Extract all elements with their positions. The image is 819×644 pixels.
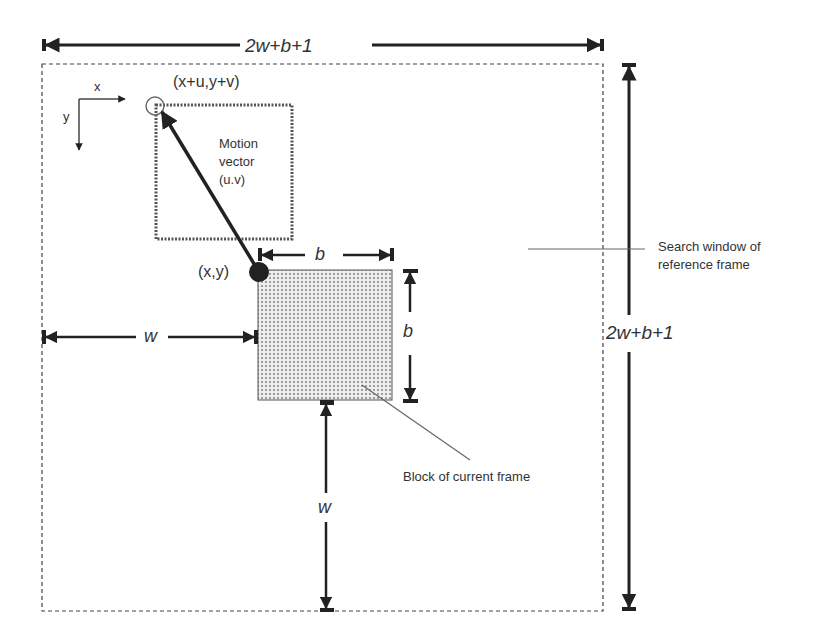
block-width-label: b — [315, 244, 325, 265]
motion-vector-label-3: (u.v) — [219, 173, 245, 188]
matched-point-label: (x+u,y+v) — [173, 73, 240, 91]
current-point-marker — [249, 262, 269, 282]
axes-icon — [79, 99, 125, 150]
motion-vector-label-2: vector — [219, 155, 254, 170]
top-dimension-label: 2w+b+1 — [245, 35, 313, 57]
axis-y-label: y — [63, 110, 70, 125]
block-width-arrow — [258, 248, 394, 261]
search-window-label-2: reference frame — [658, 258, 750, 273]
block-label: Block of current frame — [403, 470, 530, 485]
block-leader — [362, 385, 470, 460]
axis-x-label: x — [94, 80, 101, 95]
top-dimension-arrow — [42, 39, 604, 51]
block-height-label: b — [403, 321, 413, 342]
current-point-label: (x,y) — [198, 263, 229, 281]
right-dimension-label: 2w+b+1 — [606, 322, 674, 344]
motion-vector-label-1: Motion — [219, 137, 258, 152]
left-margin-label: w — [144, 326, 157, 347]
bottom-margin-label: w — [318, 497, 331, 518]
current-block — [258, 270, 392, 400]
search-window-label-1: Search window of — [658, 240, 761, 255]
